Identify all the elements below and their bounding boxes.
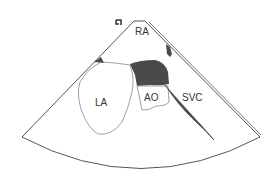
label-ra: RA xyxy=(135,26,149,37)
echo-diagram: RA LA AO SVC xyxy=(0,0,280,195)
dark-wedge-right xyxy=(166,44,172,57)
orientation-marker-icon xyxy=(116,20,121,25)
dark-mass xyxy=(130,60,169,86)
label-svc: SVC xyxy=(182,92,203,103)
label-la: LA xyxy=(95,97,108,108)
label-ao: AO xyxy=(144,92,159,103)
sector-outline xyxy=(22,21,260,169)
